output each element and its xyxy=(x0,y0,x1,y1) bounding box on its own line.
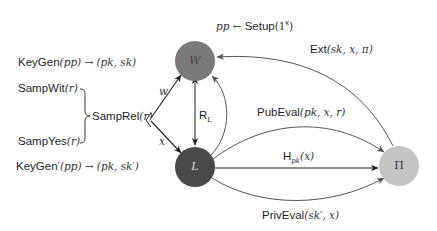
edge-hpk-sub: pk xyxy=(291,157,300,165)
keygen-arrow: → xyxy=(84,56,93,68)
keygen-arg: (pp) xyxy=(60,56,82,68)
edge-ext-fn: Ext xyxy=(310,43,327,55)
setup-lhs: pp xyxy=(216,20,229,32)
setup-arrow: ← xyxy=(233,20,242,32)
sampyes-label: SampYes(r) xyxy=(18,134,80,148)
edge-w-text: w xyxy=(159,85,168,97)
edge-x-text: x xyxy=(159,135,165,147)
keygen-prime-fn: KeyGen xyxy=(16,160,58,172)
edge-ext-label: Ext(sk, x, π) xyxy=(310,42,373,56)
sampwit-fn: SampWit xyxy=(18,82,65,94)
setup-arg: (1 xyxy=(275,20,286,32)
left-angle-brace-icon xyxy=(144,112,152,128)
edge-hpk-arg: (x) xyxy=(300,150,314,162)
edge-priveval-label: PrivEval(sk′, x) xyxy=(262,208,339,222)
setup-close: ) xyxy=(289,20,293,32)
edge-priveval xyxy=(212,178,384,201)
keygen-out: (pk, sk) xyxy=(96,56,136,68)
edge-ext-arg: (sk, x, π) xyxy=(327,43,373,55)
edge-pubeval-label: PubEval(pk, x, r) xyxy=(257,105,345,119)
edge-relation-sub: L xyxy=(207,116,212,124)
edge-relation-label: RL xyxy=(199,108,212,127)
edge-ext xyxy=(217,56,393,146)
keygen-label: KeyGen(pp) → (pk, sk) xyxy=(18,55,136,69)
keygen-prime-arg: (pp) xyxy=(60,160,82,172)
right-brace-icon xyxy=(78,88,92,144)
edge-w-label: w xyxy=(159,84,168,98)
keygen-prime-arrow: → xyxy=(85,160,94,172)
sampyes-fn: SampYes xyxy=(18,135,67,147)
edge-x xyxy=(151,121,181,153)
node-w-label: W xyxy=(175,54,215,68)
edge-l-to-w-curve xyxy=(210,76,227,156)
setup-fn: Setup xyxy=(245,20,275,32)
node-l-label: L xyxy=(175,160,215,174)
keygen-fn: KeyGen xyxy=(18,56,60,68)
edge-pubeval-fn: PubEval xyxy=(257,106,300,118)
sampwit-arg: (r) xyxy=(65,82,78,94)
edge-hpk-label: Hpk(x) xyxy=(283,149,314,168)
node-pi-label: Π xyxy=(379,159,419,173)
edge-priveval-arg: (sk′, x) xyxy=(304,209,339,221)
diagram-canvas xyxy=(0,0,437,231)
edge-x-label: x xyxy=(159,134,165,148)
keygen-prime-label: KeyGen′(pp) → (pk, sk′) xyxy=(16,159,139,173)
edge-priveval-fn: PrivEval xyxy=(262,209,304,221)
sampwit-label: SampWit(r) xyxy=(18,81,78,95)
samprel-fn: SampRel xyxy=(92,110,139,122)
keygen-prime-out: (pk, sk′) xyxy=(97,160,139,172)
edge-pubeval-arg: (pk, x, r) xyxy=(300,106,346,118)
setup-label: pp ← Setup(1κ) xyxy=(216,16,293,33)
hash-proof-diagram: W L Π pp ← Setup(1κ) KeyGen(pp) → (pk, s… xyxy=(0,0,437,231)
